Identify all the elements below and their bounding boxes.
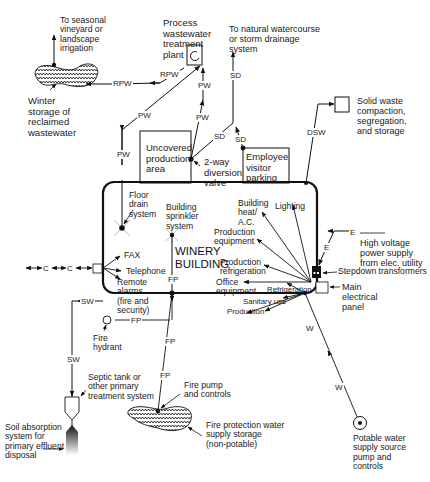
code-sw-1: SW [80,297,95,306]
code-sw-2: SW [66,355,81,364]
code-pw-2: PW [116,150,131,159]
code-pw-3: PW [195,113,210,122]
label-stepdown: Stepdown transformers [338,267,427,276]
code-dsw: DSW [306,128,327,137]
code-sd-3: SD [234,135,247,144]
code-fp-1: FP [167,275,179,284]
code-w-2: W [334,383,344,392]
label-telephone: Telephone [126,267,166,276]
building-title: WINERY BUILDING [175,245,229,270]
label-floor-drain: Floor drain system [129,191,156,219]
winery-utility-diagram: To seasonal vineyard or landscape irriga… [0,0,430,482]
label-fire-storage: Fire protection water supply storage (no… [206,421,284,449]
code-c-1: C [42,264,50,273]
code-w-1: W [305,324,315,333]
solid-waste-box [335,97,349,112]
label-soil-absorption: Soil absorption system for primary efflu… [5,423,64,461]
label-fire-hydrant: Fire hydrant [93,334,122,353]
code-rpw-2: RPW [159,70,180,79]
code-sd-1: SD [229,71,242,80]
label-uncovered-area: Uncovered production area [146,143,192,175]
code-c-2: C [66,264,74,273]
code-rpw-1: RPW [112,79,133,88]
comm-junction-box [93,264,102,273]
main-electrical-panel [316,282,328,293]
label-heat-ac: Building heat/ A.C. [238,199,269,227]
label-seasonal-irrigation: To seasonal vineyard or landscape irriga… [60,16,106,54]
label-septic-tank: Septic tank or other primary treatment s… [88,373,154,401]
fire-hydrant-symbol [103,316,111,324]
code-e-2: E [323,243,330,252]
label-natural-watercourse: To natural watercourse or storm drainage… [229,24,320,54]
winter-storage-pond [35,64,98,87]
label-winter-storage: Winter storage of reclaimed wastewater [28,96,76,138]
label-production-equipment: Production equipment [214,228,255,247]
septic-tank-symbol [65,397,79,420]
label-remote-alarms: Remote alarms (fire and security) [117,278,149,316]
label-main-panel: Main electrical panel [342,282,378,312]
label-employee-parking: Employee visitor parking [246,152,288,184]
code-sd-2: SD [213,132,226,141]
label-fax: FAX [124,251,140,260]
label-sanitary-use: Sanitary use [243,297,286,306]
code-fp-4: FP [159,371,171,380]
code-pw-4: PW [197,81,212,90]
label-diversion-valve: 2-way diversion valve [204,157,242,189]
code-e-1: E [349,228,356,237]
label-potable-source: Potable water supply source pump and con… [353,434,406,472]
code-fp-3: FP [164,337,176,346]
label-fire-pump: Fire pump and controls [184,381,231,400]
label-sprinkler: Building sprinkler system [166,203,198,231]
stepdown-transformers [312,266,321,278]
soil-absorption-symbol [66,425,78,455]
label-office-equipment: Office equipment [216,278,256,297]
label-process-plant: Process wastewater treatment plant [163,18,211,60]
label-lighting: Lighting [275,202,305,211]
label-production: Production [227,307,264,316]
code-fp-2: FP [130,316,142,325]
code-pw-1: PW [137,111,152,120]
label-solid-waste: Solid waste compaction, segregation, and… [357,96,407,136]
label-refrigeration: Refrigeration [267,285,312,294]
label-high-voltage: High voltage power supply from elec. uti… [360,238,423,268]
